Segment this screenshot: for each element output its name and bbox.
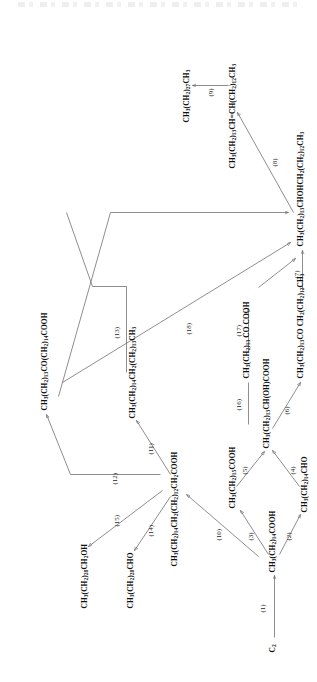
reaction-label-10: (10) [214, 528, 222, 540]
reaction-label-4: (4) [288, 466, 296, 474]
node-palmitaldehyde: CH3(CH2)14CHO [300, 456, 309, 512]
node-palmitic-acid: CH3(CH2)14COOH [268, 510, 277, 572]
reaction-label-13: (13) [112, 326, 120, 338]
edge-12c [58, 212, 110, 396]
edge-14 [134, 496, 170, 550]
edge-12b [46, 414, 70, 474]
node-keto-diacid: CH3(CH2)13CO(CH2)14COOH [40, 312, 49, 410]
node-heptadecanoic-acid: CH3(CH2)15COOH [228, 446, 237, 508]
reaction-label-6: (6) [282, 406, 290, 414]
node-hydroxy-acid: CH3(CH2)13CH(OH)COOH [262, 358, 271, 448]
reaction-scheme-canvas: C2 CH3(CH2)14COOH CH3(CH2)14CHO CH3(CH2)… [0, 0, 317, 682]
reaction-label-12: (12) [110, 472, 118, 484]
figure-page: C2 CH3(CH2)14COOH CH3(CH2)14CHO CH3(CH2)… [0, 0, 317, 682]
reaction-label-16: (16) [234, 398, 242, 410]
reaction-label-7: (7) [292, 270, 300, 278]
reaction-label-17: (17) [234, 324, 242, 336]
edge-13c [66, 212, 92, 286]
reaction-label-8: (8) [270, 158, 278, 166]
node-c2: C2 [268, 644, 277, 652]
node-secondary-alcohol: CH3(CH2)13CHOHCH2(CH2)12CH3 [296, 131, 305, 246]
reaction-label-11: (11) [146, 443, 154, 454]
reaction-label-14: (14) [146, 524, 154, 536]
node-c30-aldehyde: CH3(CH2)28CHO [126, 552, 135, 608]
edge-8 [237, 112, 293, 212]
node-long-chain-acid: CH3(CH2)14CH2(CH2)12CH2COOH [170, 451, 179, 566]
node-ketone: CH3(CH2)13CO CH2(CH2)12CH3 [296, 273, 305, 378]
node-nonacosane: CH3(CH2)27CH3 [182, 69, 191, 122]
node-long-hydrocarbon: CH3(CH2)14CH2(CH2)13CH3 [128, 326, 137, 418]
edge-10 [186, 494, 258, 556]
node-c30-alcohol: CH3(CH2)28CH2OH [80, 543, 89, 608]
reaction-label-3: (3) [246, 532, 254, 540]
reaction-label-9: (9) [206, 88, 214, 96]
reaction-label-18: (18) [184, 322, 192, 334]
reaction-label-15: (15) [112, 514, 120, 526]
edge-18 [258, 258, 295, 287]
node-keto-acid: CH3(CH2)13 CO COOH [242, 301, 251, 378]
edge-6 [272, 382, 300, 428]
reaction-label-1: (1) [258, 604, 266, 612]
reaction-label-2: (2) [284, 532, 292, 540]
node-alkene: CH3(CH2)13CH=CH(CH2)12CH3 [228, 63, 237, 168]
reaction-label-5: (5) [240, 466, 248, 474]
edge-15 [88, 490, 162, 546]
